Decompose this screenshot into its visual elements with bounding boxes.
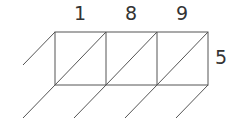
- right-digit-1: 5: [211, 48, 231, 67]
- top-digit-3: 9: [172, 4, 192, 23]
- extension-diagonal: [23, 32, 55, 65]
- extension-diagonal: [125, 85, 157, 118]
- cell-diagonal: [157, 32, 208, 85]
- top-digit-1: 1: [70, 4, 90, 23]
- lattice-grid: [0, 0, 238, 131]
- extension-diagonal: [74, 85, 106, 118]
- extension-diagonal: [176, 85, 208, 118]
- cell-diagonal: [55, 32, 106, 85]
- top-digit-2: 8: [121, 4, 141, 23]
- cell-diagonal: [106, 32, 157, 85]
- extension-diagonal: [23, 85, 55, 118]
